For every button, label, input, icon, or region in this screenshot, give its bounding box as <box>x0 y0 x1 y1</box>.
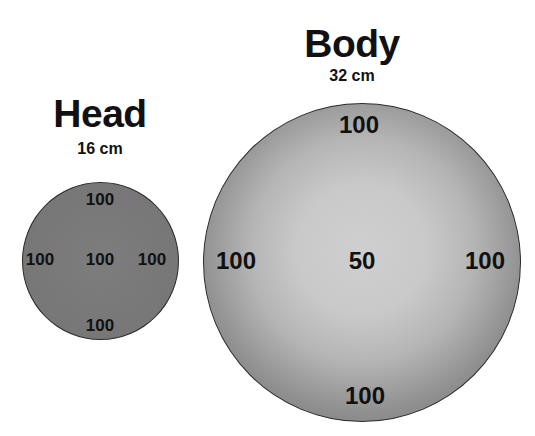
body-title: Body <box>302 24 402 63</box>
body-value-left: 100 <box>216 249 256 273</box>
head-value-bottom: 100 <box>86 317 114 334</box>
head-value-right: 100 <box>138 251 166 268</box>
head-title: Head <box>50 94 150 133</box>
head-value-top: 100 <box>86 191 114 208</box>
body-value-right: 100 <box>465 249 505 273</box>
body-value-top: 100 <box>339 113 379 137</box>
head-diameter-label: 16 cm <box>50 141 150 157</box>
head-value-center: 100 <box>86 251 114 268</box>
body-value-center: 50 <box>349 249 376 273</box>
body-diameter-label: 32 cm <box>302 68 402 84</box>
head-value-left: 100 <box>26 251 54 268</box>
body-value-bottom: 100 <box>345 384 385 408</box>
